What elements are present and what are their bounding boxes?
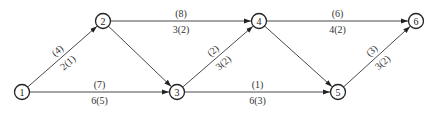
node-3: 3 — [170, 85, 185, 100]
edge-2-3 — [108, 26, 171, 86]
edges — [28, 21, 410, 92]
edge-label-lower: 2(1) — [58, 53, 78, 73]
edge-label-lower: 3(2) — [373, 53, 393, 73]
edge-label-lower: 6(5) — [91, 95, 108, 107]
edge-label-upper: (2) — [205, 42, 222, 59]
node-label: 5 — [336, 87, 341, 98]
node-2: 2 — [96, 14, 111, 29]
edge-label-upper: (8) — [175, 8, 187, 20]
node-5: 5 — [331, 85, 346, 100]
edge-label-upper: (6) — [332, 8, 344, 20]
edge-5-6 — [344, 26, 411, 87]
node-label: 3 — [175, 87, 180, 98]
edge-label-upper: (4) — [49, 43, 66, 60]
edge-3-4 — [183, 26, 253, 87]
edge-4-5 — [265, 26, 332, 87]
node-label: 1 — [20, 87, 25, 98]
node-label: 2 — [101, 16, 106, 27]
node-label: 4 — [257, 16, 262, 27]
nodes: 123456 — [15, 14, 424, 100]
edge-label-upper: (7) — [94, 79, 106, 91]
node-4: 4 — [252, 14, 267, 29]
node-6: 6 — [409, 14, 424, 29]
network-diagram: (4)2(1)(7)6(5)(8)3(2)(2)3(2)(1)6(3)(6)4(… — [0, 0, 433, 113]
edge-label-lower: 3(2) — [173, 24, 190, 36]
edge-label-upper: (3) — [364, 43, 381, 60]
edge-label-lower: 4(2) — [329, 24, 346, 36]
edge-label-upper: (1) — [252, 79, 264, 91]
node-1: 1 — [15, 85, 30, 100]
edge-label-lower: 6(3) — [249, 95, 266, 107]
edge-1-2 — [28, 26, 97, 87]
edge-label-lower: 3(2) — [213, 53, 233, 73]
node-label: 6 — [414, 16, 419, 27]
